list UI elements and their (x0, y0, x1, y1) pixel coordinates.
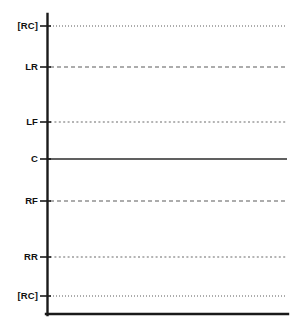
chart-canvas (0, 0, 302, 325)
tick-label-rc-top: [RC] (18, 21, 38, 31)
tick-label-rc-bottom: [RC] (18, 291, 38, 301)
tick-label-lr: LR (25, 62, 38, 72)
tick-label-rf: RF (25, 196, 38, 206)
tick-label-c: C (31, 154, 38, 164)
tick-label-lf: LF (26, 117, 38, 127)
tick-label-rr: RR (24, 252, 38, 262)
chart-plot-area: [RC] LR LF C RF RR [RC] (0, 0, 302, 325)
